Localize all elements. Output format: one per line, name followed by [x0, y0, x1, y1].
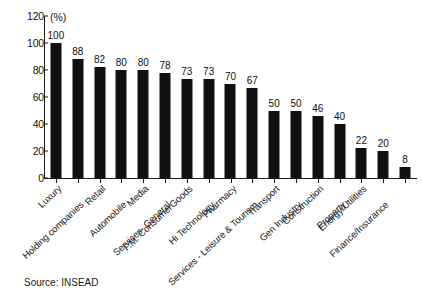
bar-slot: 80: [132, 16, 154, 178]
y-axis-tick-label: 60: [0, 91, 49, 103]
bar-value-label: 88: [72, 46, 83, 57]
bar-value-label: 80: [138, 57, 149, 68]
bar: [378, 151, 389, 178]
bar-value-label: 73: [181, 66, 192, 77]
bar-value-label: 50: [269, 98, 280, 109]
bar-value-label: 73: [203, 66, 214, 77]
bar: [181, 79, 192, 178]
y-axis-tick-label: 120: [0, 10, 49, 22]
x-axis-tick-mark: [318, 179, 319, 183]
bar: [160, 73, 171, 178]
bar: [94, 67, 105, 178]
x-axis-tick-mark: [209, 179, 210, 183]
y-axis-tick-label: 0: [0, 172, 49, 184]
x-axis-tick-mark: [78, 179, 79, 183]
bar-value-label: 22: [356, 135, 367, 146]
bar: [356, 148, 367, 178]
x-axis-tick-mark: [165, 179, 166, 183]
x-axis-category-label: Retail: [82, 183, 107, 207]
x-axis-tick-mark: [340, 179, 341, 183]
bar-value-label: 100: [48, 30, 65, 41]
bar-series: 1008882808078737370675050464022208: [45, 16, 416, 178]
bar: [225, 84, 236, 179]
bar-chart-figure: (%) 1008882808078737370675050464022208 L…: [0, 0, 422, 301]
bar-slot: 67: [241, 16, 263, 178]
x-axis-category-label: Holding companies: [20, 199, 85, 261]
bar-slot: 50: [263, 16, 285, 178]
bar-slot: 22: [351, 16, 373, 178]
bar-slot: 73: [176, 16, 198, 178]
bar: [269, 111, 280, 179]
x-axis-tick-mark: [100, 179, 101, 183]
bar-slot: 8: [394, 16, 416, 178]
bar-value-label: 40: [334, 111, 345, 122]
x-axis-tick-mark: [56, 179, 57, 183]
bar-value-label: 78: [159, 60, 170, 71]
bar-value-label: 8: [402, 154, 408, 165]
bar: [72, 59, 83, 178]
bar-value-label: 67: [247, 75, 258, 86]
source-note: Source: INSEAD: [24, 277, 98, 288]
x-axis-category-label: Automobile: [87, 199, 129, 239]
bar-value-label: 82: [94, 54, 105, 65]
x-axis-tick-mark: [405, 179, 406, 183]
x-axis-tick-mark: [361, 179, 362, 183]
x-axis-tick-mark: [143, 179, 144, 183]
bar-slot: 73: [198, 16, 220, 178]
bar: [116, 70, 127, 178]
bar-slot: 88: [67, 16, 89, 178]
bar-slot: 82: [89, 16, 111, 178]
bar-slot: 80: [110, 16, 132, 178]
x-axis-tick-mark: [121, 179, 122, 183]
x-axis-category-label: Luxury: [35, 183, 63, 210]
x-axis-tick-mark: [187, 179, 188, 183]
y-axis-tick-label: 80: [0, 64, 49, 76]
y-axis-tick-label: 20: [0, 145, 49, 157]
bar-value-label: 70: [225, 71, 236, 82]
x-axis-category-label: Media: [125, 183, 151, 208]
bar-value-label: 80: [116, 57, 127, 68]
x-axis-tick-mark: [274, 179, 275, 183]
bar-slot: 50: [285, 16, 307, 178]
y-axis-tick-label: 100: [0, 37, 49, 49]
bar: [138, 70, 149, 178]
bar-slot: 70: [220, 16, 242, 178]
bar-slot: 20: [372, 16, 394, 178]
bar: [203, 79, 214, 178]
x-axis-tick-mark: [231, 179, 232, 183]
bar-value-label: 50: [290, 98, 301, 109]
x-axis-tick-mark: [252, 179, 253, 183]
bar-slot: 40: [329, 16, 351, 178]
x-axis-tick-mark: [296, 179, 297, 183]
x-axis-category-labels: LuxuryHolding companiesRetailAutomobileM…: [0, 183, 422, 273]
y-axis-tick-label: 40: [0, 118, 49, 130]
bar: [312, 116, 323, 178]
bar-slot: 78: [154, 16, 176, 178]
bar-value-label: 46: [312, 103, 323, 114]
bar-value-label: 20: [378, 138, 389, 149]
bar: [247, 88, 258, 178]
bar-slot: 46: [307, 16, 329, 178]
bar: [50, 43, 61, 178]
bar: [290, 111, 301, 179]
bar: [334, 124, 345, 178]
x-axis-tick-mark: [383, 179, 384, 183]
bar: [400, 167, 411, 178]
